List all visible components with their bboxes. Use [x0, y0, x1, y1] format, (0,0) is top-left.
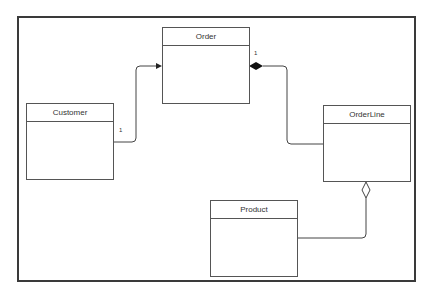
class-order[interactable]: Order	[162, 27, 250, 104]
composition-diamond-icon	[249, 62, 263, 70]
class-customer[interactable]: Customer	[26, 103, 114, 180]
class-orderline-name: OrderLine	[324, 106, 410, 124]
aggregation-diamond-icon	[362, 182, 370, 198]
multiplicity-customer: 1	[119, 127, 122, 133]
class-product[interactable]: Product	[210, 200, 298, 277]
class-customer-name: Customer	[27, 104, 113, 122]
class-order-name: Order	[163, 28, 249, 46]
order-orderline-composition	[263, 66, 323, 144]
class-orderline[interactable]: OrderLine	[323, 105, 411, 182]
multiplicity-order: 1	[254, 50, 257, 56]
orderline-product-aggregation	[298, 198, 366, 238]
class-product-name: Product	[211, 201, 297, 219]
